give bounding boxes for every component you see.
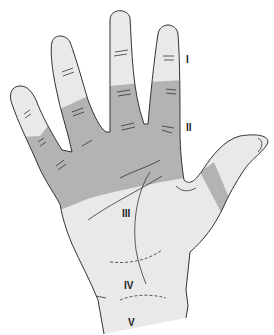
zone-label-ii: II xyxy=(186,122,192,133)
zone-label-iv: IV xyxy=(124,280,133,291)
zone-label-iii: III xyxy=(122,208,130,219)
zone-label-v: V xyxy=(128,317,135,328)
zone-label-i: I xyxy=(186,54,189,65)
hand-zones-diagram: I II III IV V xyxy=(0,0,274,335)
hand-illustration xyxy=(0,0,274,335)
